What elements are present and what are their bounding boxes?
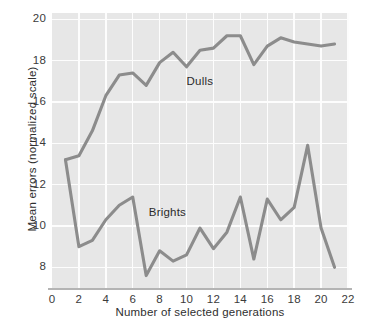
series-line-dulls (65, 36, 334, 160)
x-tick-label: 4 (95, 293, 117, 305)
x-tick-label: 12 (202, 293, 224, 305)
series-label-brights: Brights (149, 206, 186, 218)
x-tick-label: 6 (122, 293, 144, 305)
x-tick-label: 20 (310, 293, 332, 305)
x-tick-label: 14 (229, 293, 251, 305)
x-axis-line (48, 288, 352, 290)
x-tick-label: 0 (41, 293, 63, 305)
x-tick-label: 16 (256, 293, 278, 305)
x-tick-label: 10 (176, 293, 198, 305)
series-line-brights (65, 145, 334, 275)
plot-area (52, 13, 348, 288)
x-axis-title: Number of selected generations (52, 306, 348, 318)
x-tick-label: 8 (149, 293, 171, 305)
x-tick-label: 2 (68, 293, 90, 305)
chart-figure: 8101214161820 0246810121416182022 DullsB… (0, 0, 375, 326)
x-tick-label: 18 (283, 293, 305, 305)
x-tick-label: 22 (337, 293, 359, 305)
series-lines (52, 13, 348, 288)
y-tick-label: 20 (24, 12, 46, 24)
y-axis-title: Mean errors (normalized scale) (26, 34, 38, 264)
series-label-dulls: Dulls (187, 75, 214, 87)
